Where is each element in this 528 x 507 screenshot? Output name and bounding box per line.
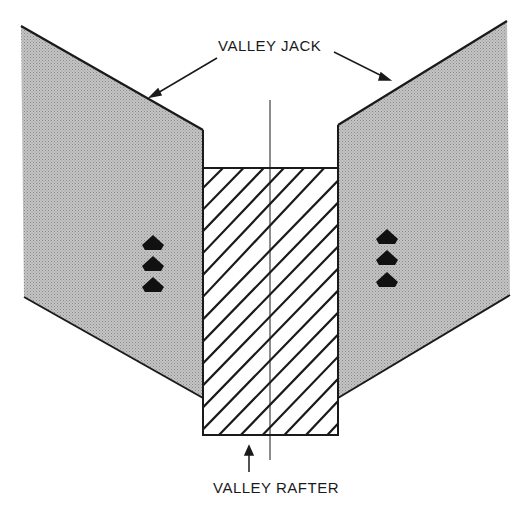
arrowhead-icon bbox=[245, 446, 253, 455]
arrow-right-jack bbox=[334, 52, 384, 77]
right-valley-jack bbox=[338, 21, 510, 398]
arrowhead-icon bbox=[150, 89, 161, 97]
valley-rafter-arrow bbox=[245, 446, 253, 472]
arrowhead-icon bbox=[379, 73, 390, 80]
valley-framing-diagram bbox=[0, 0, 528, 507]
valley-jack-arrows bbox=[150, 52, 390, 97]
arrow-left-jack bbox=[156, 58, 217, 94]
valley-jack-label: VALLEY JACK bbox=[218, 37, 321, 54]
valley-rafter-label: VALLEY RAFTER bbox=[213, 479, 339, 496]
